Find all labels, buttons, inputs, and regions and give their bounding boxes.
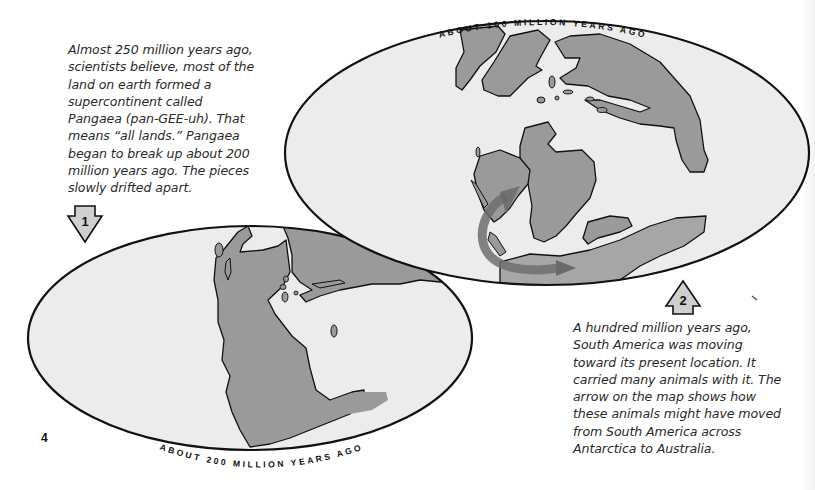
svg-text:2: 2 [679,293,686,308]
explanation-caption: A hundred million years ago, South Ameri… [573,319,813,457]
svg-text:1: 1 [81,214,88,229]
textbook-page: ABOUT 200 MILLION YEARS AGO [0,0,815,490]
step-1-down-arrow-icon: 1 [68,206,102,242]
page-number: 4 [41,431,48,445]
step-2-up-arrow-icon: 2 [666,281,700,314]
intro-caption: Almost 250 million years ago, scientists… [68,41,278,197]
print-speck [752,296,757,300]
